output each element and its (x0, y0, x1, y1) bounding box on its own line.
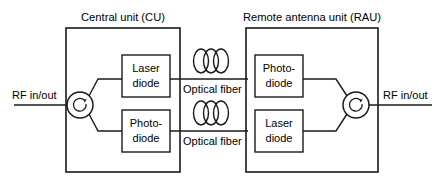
cu-photodiode-label-line2: diode (133, 132, 160, 144)
fiber-upper-label: Optical fiber (183, 83, 242, 95)
cu-laser-diode-label-line2: diode (133, 77, 160, 89)
cu-photodiode-label-line1: Photo- (130, 117, 163, 129)
fiber-upper-coil-icon (194, 49, 229, 73)
central-unit-title: Central unit (CU) (81, 11, 165, 23)
cu-laser-diode-label-line1: Laser (132, 62, 160, 74)
rau-photodiode-label-line2: diode (266, 77, 293, 89)
rau-photodiode-label-line1: Photo- (263, 62, 296, 74)
cu-circulator-to-laser-wire (89, 79, 122, 96)
rau-laser-diode-label-line2: diode (266, 132, 293, 144)
remote-antenna-unit-title: Remote antenna unit (RAU) (243, 11, 381, 23)
cu-circulator-to-photodiode-wire (89, 114, 122, 131)
rau-photodiode-to-circulator-wire (303, 79, 347, 96)
rau-laser-diode-label-line1: Laser (265, 117, 293, 129)
rf-right-label: RF in/out (383, 89, 428, 101)
fiber-lower-label: Optical fiber (183, 135, 242, 147)
fiber-lower-coil-icon (194, 101, 229, 125)
block-diagram: Central unit (CU) Remote antenna unit (R… (0, 0, 446, 184)
circulator-right (343, 92, 369, 118)
rau-circulator-to-laser-wire (303, 114, 347, 131)
diagram-canvas: Central unit (CU) Remote antenna unit (R… (0, 0, 446, 184)
rf-left-label: RF in/out (12, 89, 57, 101)
circulator-left (67, 92, 93, 118)
